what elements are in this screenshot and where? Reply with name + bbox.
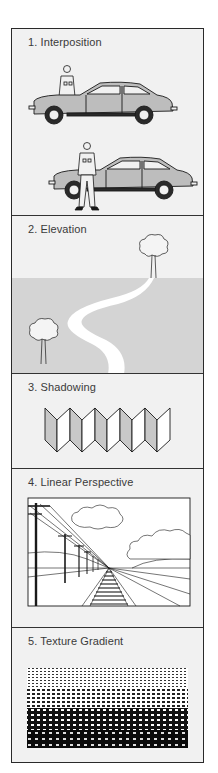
panel-shadowing: 3. Shadowing	[12, 373, 203, 468]
panel-texture-gradient: 5. Texture Gradient	[12, 627, 203, 764]
car-front-icon	[49, 157, 197, 199]
panel-linear-perspective: 4. Linear Perspective	[12, 468, 203, 627]
panel-elevation: 2. Elevation	[12, 215, 203, 373]
texture-gradient-illustration	[12, 628, 203, 764]
interposition-illustration	[12, 29, 203, 215]
tree-far-icon	[140, 235, 168, 279]
elevation-illustration	[12, 216, 203, 373]
folded-strip	[45, 408, 170, 452]
shadowing-illustration	[12, 374, 203, 468]
linear-perspective-illustration	[12, 469, 203, 627]
car-back-icon	[29, 82, 177, 124]
person-behind-car-icon	[59, 66, 75, 98]
panel-title: 2. Elevation	[28, 223, 87, 235]
panel-interposition: 1. Interposition	[12, 29, 203, 215]
depth-cues-figure: 1. Interposition	[11, 28, 204, 763]
